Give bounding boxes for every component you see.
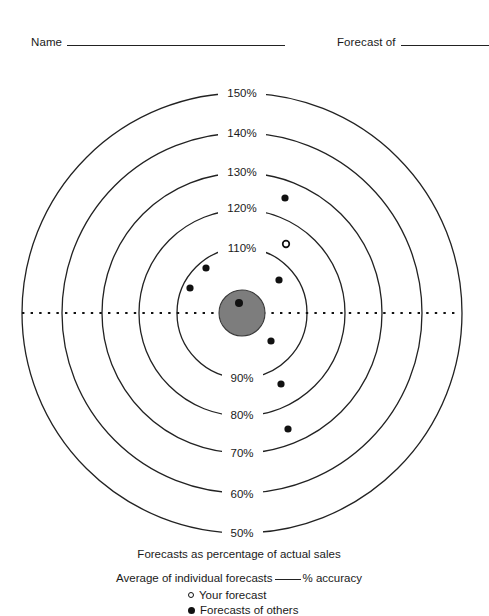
average-prefix-text: Average of individual forecasts — [116, 572, 272, 584]
ring-label-110: 110% — [228, 242, 257, 254]
chart-caption-main-text: Forecasts as percentage of actual sales — [137, 548, 340, 560]
ring-labels-lower: 90% 80% 70% 60% 50% — [230, 372, 253, 539]
chart-caption-average: Average of individual forecasts% accurac… — [0, 572, 478, 584]
bullseye-center — [219, 290, 265, 336]
ring-label-90: 90% — [230, 372, 253, 384]
ring-label-120: 120% — [227, 202, 256, 214]
ring-label-50: 50% — [230, 527, 253, 539]
legend-forecasts-of-others-label: Forecasts of others — [200, 604, 298, 616]
ring-label-70: 70% — [230, 447, 253, 459]
data-point-other — [284, 425, 291, 432]
data-point-other — [275, 276, 282, 283]
filled-dot-marker-icon — [188, 607, 195, 614]
data-point-other — [277, 380, 284, 387]
average-suffix-text: % accuracy — [302, 572, 361, 584]
data-point-other — [235, 299, 243, 307]
average-accuracy-write-in-line[interactable] — [275, 579, 301, 580]
data-point-your-forecast — [283, 241, 290, 248]
data-point-other — [186, 284, 193, 291]
open-circle-marker-icon — [188, 592, 194, 598]
legend-forecasts-of-others: Forecasts of others — [0, 604, 478, 616]
ring-labels-upper: 150% 140% 130% 120% 110% — [227, 87, 256, 254]
legend-your-forecast-label: Your forecast — [199, 589, 266, 601]
ring-label-140: 140% — [227, 127, 256, 139]
ring-label-80: 80% — [230, 409, 253, 421]
ring-label-130: 130% — [227, 166, 256, 178]
ring-label-60: 60% — [230, 488, 253, 500]
chart-caption-main: Forecasts as percentage of actual sales — [0, 548, 478, 560]
data-point-other — [202, 264, 209, 271]
data-point-other — [267, 337, 274, 344]
legend-your-forecast: Your forecast — [0, 589, 478, 601]
ring-label-150: 150% — [227, 87, 256, 99]
series-your-forecast — [283, 241, 290, 248]
data-point-other — [281, 194, 288, 201]
